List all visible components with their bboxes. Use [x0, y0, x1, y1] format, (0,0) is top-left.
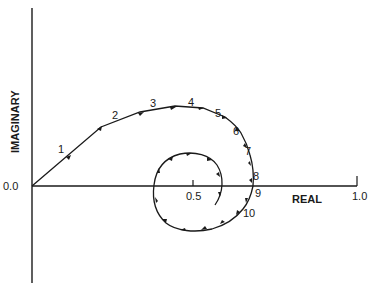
point-label-8: 8 [253, 170, 259, 182]
x-tick-label-1-0: 1.0 [352, 190, 367, 202]
point-label-9: 9 [255, 187, 261, 199]
point-label-7: 7 [245, 145, 251, 157]
origin-label: 0.0 [3, 180, 18, 192]
locus-outer [32, 106, 253, 231]
point-label-2: 2 [112, 109, 118, 121]
point-label-1: 1 [58, 143, 64, 155]
point-label-6: 6 [233, 125, 239, 137]
y-axis-label: IMAGINARY [9, 90, 21, 153]
direction-arrows [66, 107, 252, 231]
x-axis-label: REAL [292, 193, 322, 205]
x-tick-label-0-5: 0.5 [186, 190, 201, 202]
point-label-5: 5 [215, 107, 221, 119]
point-label-10: 10 [243, 207, 255, 219]
spiral-diagram: 0.0 0.5 1.0 REAL IMAGINARY 1 2 3 4 5 6 7 [0, 0, 374, 292]
point-label-4: 4 [188, 96, 194, 108]
point-label-3: 3 [150, 97, 156, 109]
